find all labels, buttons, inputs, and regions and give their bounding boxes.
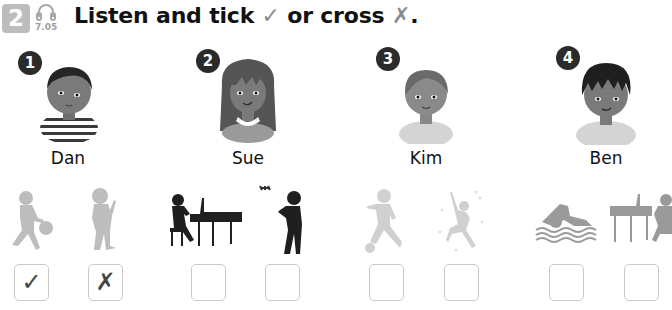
piano-player-icon: [610, 194, 672, 248]
avatar-kim: [396, 62, 456, 144]
piano-player-icon: [168, 192, 244, 248]
child-name-ben: Ben: [566, 148, 646, 168]
swimmer-icon: [534, 200, 602, 244]
answer-box-ben-1[interactable]: [549, 264, 584, 301]
instruction-text-end: .: [410, 3, 418, 28]
instruction-text-middle: or cross: [280, 3, 392, 28]
child-name-dan: Dan: [28, 148, 108, 168]
child-name-kim: Kim: [386, 148, 466, 168]
avatar-sue: [216, 55, 280, 143]
instruction-text: Listen and tick: [74, 3, 262, 28]
football-player-icon: [362, 188, 410, 254]
answer-box-kim-1[interactable]: [369, 264, 404, 301]
avatar-ben: [574, 55, 638, 145]
avatar-dan: [38, 60, 100, 142]
child-flying-drone-icon: [256, 184, 306, 256]
answer-box-kim-2[interactable]: [444, 264, 479, 301]
instruction-title: Listen and tick ✓ or cross ✗.: [74, 3, 418, 28]
child-eating-ice-cream-icon: [88, 186, 122, 254]
headphones-icon: [34, 2, 58, 22]
answer-box-dan-1[interactable]: ✓: [14, 264, 49, 301]
answer-box-sue-1[interactable]: [191, 264, 226, 301]
cross-icon: ✗: [392, 3, 410, 28]
track-number: 7.05: [35, 22, 57, 32]
climber-icon: [436, 186, 486, 254]
answer-box-ben-2[interactable]: [624, 264, 659, 301]
basketball-player-icon: [8, 190, 56, 254]
audio-track[interactable]: 7.05: [34, 2, 62, 36]
answer-box-sue-2[interactable]: [265, 264, 300, 301]
child-name-sue: Sue: [208, 148, 288, 168]
exercise-number: 2: [2, 4, 30, 33]
answer-box-dan-2[interactable]: ✗: [88, 264, 123, 301]
tick-icon: ✓: [262, 3, 280, 28]
